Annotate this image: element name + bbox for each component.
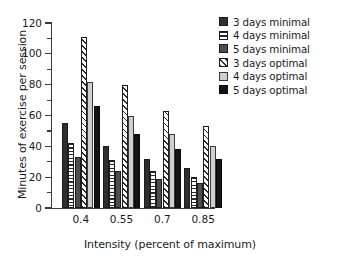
bar: [163, 111, 169, 208]
legend-swatch-solid-dark-icon: [219, 17, 228, 26]
legend-item: 5 days optimal: [219, 83, 339, 97]
bar: [94, 106, 100, 208]
legend-item: 3 days minimal: [219, 15, 339, 29]
bar: [62, 123, 68, 208]
x-tick-label: 0.4: [58, 213, 104, 225]
bar: [103, 146, 109, 208]
x-axis-title: Intensity (percent of maximum): [0, 238, 340, 251]
bar: [216, 159, 222, 208]
bar: [115, 171, 121, 208]
legend-item-label: 3 days optimal: [233, 57, 307, 69]
legend-item-label: 5 days minimal: [233, 43, 310, 55]
bar: [134, 134, 140, 208]
bar: [197, 183, 203, 208]
bar: [156, 179, 162, 208]
bar-chart-figure: Minutes of exercise per session Intensit…: [0, 0, 340, 258]
legend-item-label: 4 days minimal: [233, 29, 310, 41]
bar: [87, 82, 93, 208]
legend-item-label: 5 days optimal: [233, 84, 307, 96]
bar: [75, 157, 81, 208]
legend-swatch-black-icon: [219, 85, 228, 94]
legend-item-label: 4 days optimal: [233, 70, 307, 82]
x-tick-label: 0.85: [180, 213, 226, 225]
bar: [191, 177, 197, 208]
bar: [128, 116, 134, 209]
bar: [210, 146, 216, 208]
chart-legend: 3 days minimal4 days minimal5 days minim…: [219, 15, 339, 97]
legend-item: 4 days minimal: [219, 29, 339, 43]
legend-swatch-light-gray-icon: [219, 72, 228, 81]
legend-swatch-horizontal-stripe-icon: [219, 31, 228, 40]
bar: [175, 149, 181, 208]
legend-swatch-medium-gray-icon: [219, 44, 228, 53]
bar: [109, 160, 115, 208]
bar: [150, 171, 156, 208]
bar: [203, 126, 209, 208]
bar: [68, 143, 74, 208]
legend-item: 4 days optimal: [219, 69, 339, 83]
bar: [81, 37, 87, 208]
x-tick-label: 0.55: [99, 213, 145, 225]
x-tick-label: 0.7: [139, 213, 185, 225]
bar: [184, 168, 190, 208]
bar: [144, 159, 150, 208]
bar: [169, 134, 175, 208]
bar: [122, 85, 128, 208]
legend-item: 3 days optimal: [219, 56, 339, 70]
legend-item-label: 3 days minimal: [233, 16, 310, 28]
legend-swatch-diagonal-hatch-icon: [219, 58, 228, 67]
legend-item: 5 days minimal: [219, 42, 339, 56]
